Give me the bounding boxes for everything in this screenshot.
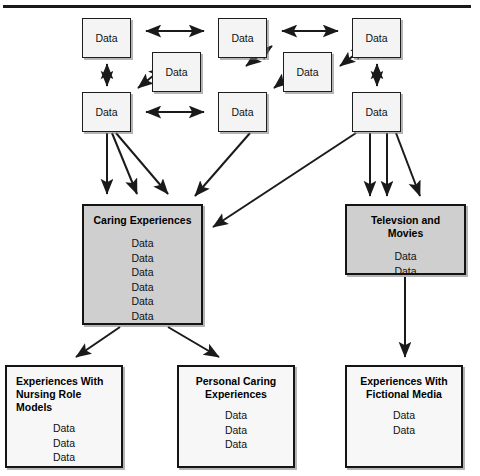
edge-caring-personal	[168, 327, 219, 357]
list-item: Data	[179, 437, 293, 452]
data-node-8[interactable]: Data	[352, 92, 401, 132]
list-item: Data	[7, 450, 121, 465]
header-rule	[3, 5, 471, 8]
diagram-canvas: Data Data Data Data Data Data Data Data …	[0, 0, 480, 476]
data-node-7[interactable]: Data	[218, 92, 267, 132]
list-item: Data	[7, 436, 121, 451]
list-item: Data	[84, 251, 201, 266]
outcome-node-title: Experiences With Fictional Media	[347, 367, 461, 401]
outcome-node-item-list: Data Data Data	[179, 408, 293, 452]
data-node-2[interactable]: Data	[152, 52, 201, 92]
edge-d6-caring-b	[112, 133, 137, 194]
edge-d8-caring	[213, 133, 356, 227]
theme-node-item-list: Data Data Data Data Data Data	[84, 236, 201, 323]
list-item: Data	[84, 280, 201, 295]
outcome-node-item-list: Data Data Data	[7, 421, 121, 465]
list-item: Data	[179, 423, 293, 438]
data-node-label: Data	[231, 107, 253, 118]
outcome-node-item-list: Data Data	[347, 408, 461, 437]
data-node-label: Data	[296, 67, 318, 78]
theme-node-caring-experiences[interactable]: Caring Experiences Data Data Data Data D…	[82, 204, 203, 325]
list-item: Data	[347, 423, 461, 438]
list-item: Data	[347, 408, 461, 423]
theme-node-title: Televsion and Movies	[347, 206, 464, 240]
theme-node-title: Caring Experiences	[84, 206, 201, 227]
edge-d8-tv-c	[396, 133, 420, 196]
data-node-4[interactable]: Data	[283, 52, 332, 92]
theme-node-item-list: Data Data	[347, 249, 464, 278]
outcome-node-title: Experiences With Nursing Role Models	[7, 367, 121, 414]
list-item: Data	[347, 249, 464, 264]
data-node-3[interactable]: Data	[218, 18, 267, 58]
list-item: Data	[179, 408, 293, 423]
outcome-node-fictional-media[interactable]: Experiences With Fictional Media Data Da…	[345, 365, 463, 468]
outcome-node-personal-caring-experiences[interactable]: Personal Caring Experiences Data Data Da…	[177, 365, 295, 468]
list-item: Data	[84, 265, 201, 280]
outcome-node-nursing-role-models[interactable]: Experiences With Nursing Role Models Dat…	[5, 365, 123, 468]
list-item: Data	[84, 294, 201, 309]
theme-node-television-and-movies[interactable]: Televsion and Movies Data Data	[345, 204, 466, 275]
data-node-label: Data	[365, 33, 387, 44]
data-node-label: Data	[95, 33, 117, 44]
edge-d6-caring-c	[116, 133, 168, 194]
data-node-label: Data	[231, 33, 253, 44]
edge-d7-caring	[195, 133, 250, 196]
list-item: Data	[347, 264, 464, 279]
data-node-label: Data	[365, 107, 387, 118]
edge-caring-nursing	[76, 327, 120, 357]
data-node-label: Data	[95, 107, 117, 118]
data-node-6[interactable]: Data	[82, 92, 131, 132]
list-item: Data	[7, 421, 121, 436]
data-node-label: Data	[165, 67, 187, 78]
list-item: Data	[84, 309, 201, 324]
data-node-5[interactable]: Data	[352, 18, 401, 58]
outcome-node-title: Personal Caring Experiences	[179, 367, 293, 401]
data-node-1[interactable]: Data	[82, 18, 131, 58]
list-item: Data	[84, 236, 201, 251]
